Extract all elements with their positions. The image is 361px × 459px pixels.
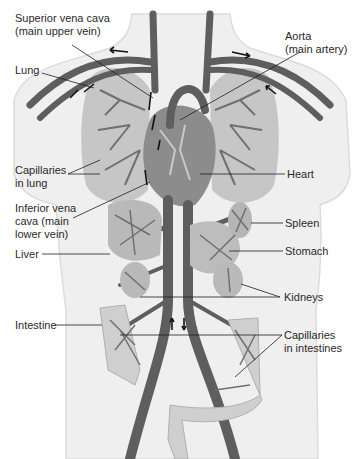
label-stomach: Stomach <box>285 245 328 258</box>
label-superior-vena-cava: Superior vena cava (main upper vein) <box>15 12 110 38</box>
label-heart: Heart <box>287 168 314 181</box>
label-aorta: Aorta (main artery) <box>285 30 347 56</box>
label-lung: Lung <box>15 64 39 77</box>
label-kidneys: Kidneys <box>284 291 323 304</box>
label-liver: Liver <box>15 248 39 261</box>
label-intestine: Intestine <box>15 319 57 332</box>
label-capillaries-lung: Capillaries in lung <box>15 164 66 190</box>
left-lung <box>81 68 150 203</box>
label-spleen: Spleen <box>285 217 319 230</box>
right-kidney <box>213 262 243 298</box>
circulatory-system-diagram: Superior vena cava (main upper vein) Aor… <box>0 0 361 459</box>
label-inferior-vena-cava: Inferior vena cava (main lower vein) <box>15 202 76 241</box>
label-capillaries-intestines: Capillaries in intestines <box>284 329 342 355</box>
